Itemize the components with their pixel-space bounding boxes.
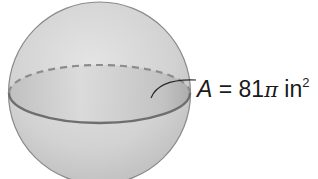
unit-exponent: 2 [302, 75, 309, 90]
equals-sign: = [219, 76, 232, 102]
area-variable: A [197, 76, 212, 102]
area-label: A = 81π in2 [197, 69, 310, 104]
area-coefficient: 81 [239, 76, 265, 102]
area-unit: in [284, 76, 302, 102]
pi-symbol: π [264, 78, 278, 102]
